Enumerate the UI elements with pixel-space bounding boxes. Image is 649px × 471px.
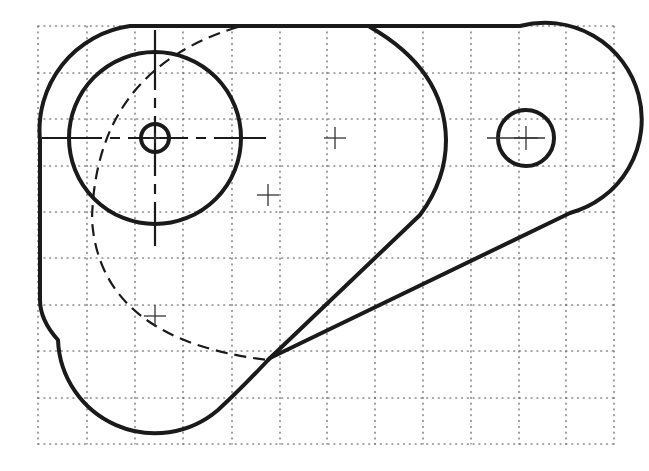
reference-mark-mid-icon xyxy=(257,184,279,206)
inner-teardrop-loop xyxy=(268,27,446,360)
technical-drawing xyxy=(0,0,649,471)
center-mark-large-circle-icon xyxy=(150,133,160,143)
cross-marks xyxy=(144,126,538,327)
reference-mark-lower-left-icon xyxy=(144,305,166,327)
outer-boundary-outline xyxy=(40,23,642,434)
hidden-dashed-arc xyxy=(92,27,268,360)
center-mark-right-hole-icon xyxy=(514,126,538,150)
